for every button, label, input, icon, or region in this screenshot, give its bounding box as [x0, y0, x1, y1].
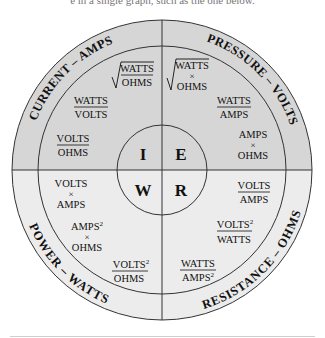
svg-text:AMPS: AMPS	[57, 199, 86, 210]
svg-text:VOLTS2: VOLTS2	[113, 258, 150, 270]
svg-text:VOLTS2: VOLTS2	[217, 218, 254, 230]
svg-text:AMPS2: AMPS2	[182, 271, 215, 283]
svg-text:OHMS: OHMS	[177, 81, 208, 92]
svg-text:AMPS: AMPS	[220, 109, 249, 120]
center-letter-W: W	[135, 181, 152, 200]
svg-text:WATTS: WATTS	[175, 60, 209, 71]
svg-text:VOLTS: VOLTS	[55, 178, 88, 189]
svg-text:OHMS: OHMS	[58, 147, 89, 158]
svg-text:WATTS: WATTS	[181, 258, 215, 269]
center-letter-R: R	[175, 181, 188, 200]
svg-text:×: ×	[189, 71, 194, 81]
svg-text:VOLTS: VOLTS	[238, 180, 271, 191]
center-letter-I: I	[140, 145, 147, 164]
svg-text:WATTS: WATTS	[217, 95, 251, 106]
svg-text:×: ×	[84, 232, 89, 242]
svg-text:WATTS: WATTS	[120, 63, 154, 74]
svg-text:AMPS: AMPS	[240, 194, 269, 205]
svg-text:VOLTS: VOLTS	[57, 133, 90, 144]
svg-text:VOLTS: VOLTS	[75, 109, 108, 120]
svg-text:OHMS: OHMS	[72, 242, 103, 253]
svg-text:AMPS: AMPS	[239, 129, 268, 140]
svg-text:×: ×	[250, 140, 255, 150]
ohms-law-wheel: I E W R CURRENT – AMPS PRESSURE – VOLTS …	[0, 0, 325, 338]
formula-power-volts-squared-over-ohms: VOLTS2 OHMS	[112, 258, 150, 284]
page-divider-line	[10, 336, 315, 337]
svg-text:OHMS: OHMS	[238, 150, 269, 161]
svg-text:OHMS: OHMS	[114, 273, 145, 284]
svg-text:×: ×	[68, 189, 73, 199]
svg-text:WATTS: WATTS	[74, 95, 108, 106]
svg-text:OHMS: OHMS	[122, 77, 153, 88]
center-letter-E: E	[175, 145, 186, 164]
svg-text:WATTS: WATTS	[217, 234, 251, 245]
svg-text:AMPS2: AMPS2	[71, 220, 104, 232]
